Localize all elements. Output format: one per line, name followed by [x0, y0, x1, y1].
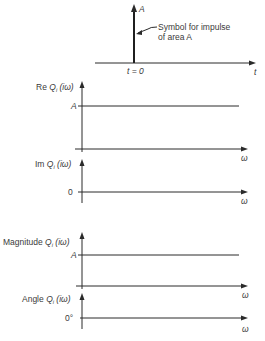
magnitude-ylabel: Magnitude Qi (iω) [3, 237, 70, 248]
im-vertical-arrow-icon [80, 159, 85, 166]
plot-magnitude: Magnitude Qi (iω) A ω [3, 232, 249, 300]
time-zero-label: t = 0 [127, 66, 144, 76]
plot-real-part: Re Qi (iω) A [36, 81, 248, 152]
angle-vertical-arrow-icon [80, 293, 85, 300]
magnitude-omega-label: ω [242, 290, 249, 300]
im-omega-label: ω [241, 196, 248, 206]
annotation-line-1: Symbol for impulse [158, 22, 231, 32]
angle-level-label: 0° [65, 313, 73, 323]
magnitude-omega-arrow-icon [241, 284, 248, 289]
impulse-time-plot: A Symbol for impulse of area A t = 0 t [95, 4, 257, 77]
re-omega-label: ω [241, 153, 248, 163]
im-omega-arrow-icon [241, 190, 248, 195]
re-ylabel: Re Qi (iω) [36, 82, 74, 93]
angle-omega-arrow-icon [241, 316, 248, 321]
time-axis-label: t [254, 67, 257, 77]
time-axis-arrow-icon [249, 61, 256, 66]
magnitude-level-label: A [70, 250, 77, 260]
annotation-line-2: of area A [158, 32, 192, 42]
plot-angle: Angle Qi (iω) 0° ω [22, 293, 249, 334]
re-omega-arrow-icon [241, 147, 248, 152]
angle-ylabel: Angle Qi (iω) [22, 294, 71, 305]
magnitude-vertical-arrow-icon [80, 232, 85, 239]
impulse-amplitude-label: A [138, 4, 145, 14]
im-level-label: 0 [68, 187, 73, 197]
im-ylabel: Im Qi (iω) [35, 159, 71, 170]
annotation-arrow-icon [136, 30, 142, 35]
re-vertical-arrow-icon [80, 81, 85, 88]
impulse-arrow-icon [131, 4, 137, 12]
impulse-spectrum-diagram: A Symbol for impulse of area A t = 0 t R… [0, 0, 265, 341]
plot-imaginary-part: Im Qi (iω) 0 ω ω [35, 153, 248, 206]
angle-omega-label: ω [242, 324, 249, 334]
re-level-label: A [70, 101, 77, 111]
